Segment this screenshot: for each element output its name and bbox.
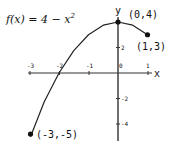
y-tick-label: -4	[121, 120, 129, 127]
x-tick-label: 0	[119, 62, 123, 69]
y-tick-label: -2	[121, 95, 129, 102]
point-label: (-3,-5)	[36, 129, 78, 140]
function-label: f(x) = 4 − x2	[6, 12, 75, 26]
point-label: (1,3)	[136, 41, 166, 52]
x-tick-label: -3	[27, 62, 35, 69]
y-tick-label: 2	[121, 44, 125, 51]
x-tick-label: -1	[86, 62, 94, 69]
x-axis-label: x	[154, 68, 160, 79]
function-label-exponent: 2	[70, 12, 74, 20]
y-axis-label: y	[115, 5, 121, 16]
function-graph: f(x) = 4 − x2 -3 -2 -1 0 1 2 -2 -4 x y	[0, 0, 172, 148]
x-tick-label: 1	[146, 62, 150, 69]
point-label: (0,4)	[128, 9, 158, 20]
point-marker	[28, 131, 33, 136]
function-label-text: f(x) = 4 − x	[6, 13, 70, 26]
point-marker	[145, 32, 150, 37]
parabola-curve	[31, 22, 148, 137]
point-marker	[115, 19, 120, 24]
